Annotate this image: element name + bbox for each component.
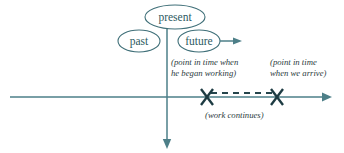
node-future[interactable]: future [178,30,220,52]
node-present[interactable]: present [145,5,205,29]
annotation-began-working: (point in time when he began working) [171,57,238,78]
present-axis-arrowhead-icon [163,139,171,149]
annotation-work-continues: (work continues) [205,110,264,121]
time-axis-arrowhead-icon [322,93,332,102]
future-direction-arrow [220,37,242,44]
node-past[interactable]: past [118,30,160,52]
node-past-label: past [130,35,149,48]
timeline-diagram: present past future (point in time [0,0,344,153]
future-arrowhead-icon [233,37,242,44]
horizontal-time-axis [10,93,332,102]
node-present-label: present [158,11,192,24]
annotation-arrive: (point in time when we arrive) [270,57,326,78]
present-vertical-axis [163,28,171,149]
node-future-label: future [185,35,212,47]
